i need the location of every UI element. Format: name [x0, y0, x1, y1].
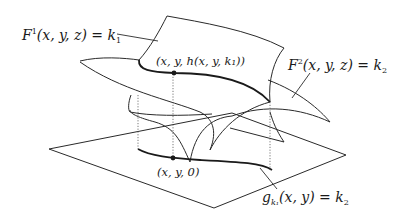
label-curve-sub: k₁: [271, 198, 279, 207]
plane-edge-back-left: [49, 113, 232, 149]
label-surface1-sub: 1: [116, 36, 121, 45]
label-surface2: F2(x, y, z) = k2: [287, 57, 387, 75]
point-2d-marker: [171, 156, 176, 161]
f1-top-edge: [167, 16, 284, 48]
diagram-canvas: F1(x, y, z) = k1 F2(x, y, z) = k2 (x, y,…: [0, 0, 399, 221]
label-surface2-args: (x, y, z) = k: [303, 57, 382, 73]
label-surface2-sub: 2: [382, 66, 387, 75]
label-curve-sub2: 2: [344, 198, 349, 207]
label-curve-args: (x, y) = k: [279, 189, 344, 205]
point-3d-marker: [172, 71, 177, 76]
f2-front-wing: [130, 110, 190, 162]
plane-edge-back-right: [232, 113, 346, 155]
label-curve-name: g: [262, 189, 271, 205]
surface-f2: [130, 80, 330, 162]
arrow-surface2: [292, 73, 310, 98]
f1-left-wing-bottom: [80, 62, 214, 150]
label-surface1-args: (x, y, z) = k: [37, 27, 116, 43]
label-point2d: (x, y, 0): [157, 165, 199, 179]
f2-upper-edge: [268, 80, 330, 122]
f1-right-edge: [270, 48, 284, 102]
label-curve: gk₁(x, y) = k2: [262, 189, 349, 207]
arrow-surface1: [117, 34, 158, 41]
label-point3d: (x, y, h(x, y, k₁)): [156, 54, 245, 68]
label-surface1: F1(x, y, z) = k1: [21, 27, 121, 45]
f1-left-wing-top: [80, 58, 139, 61]
f2-lower-edge: [232, 109, 330, 122]
